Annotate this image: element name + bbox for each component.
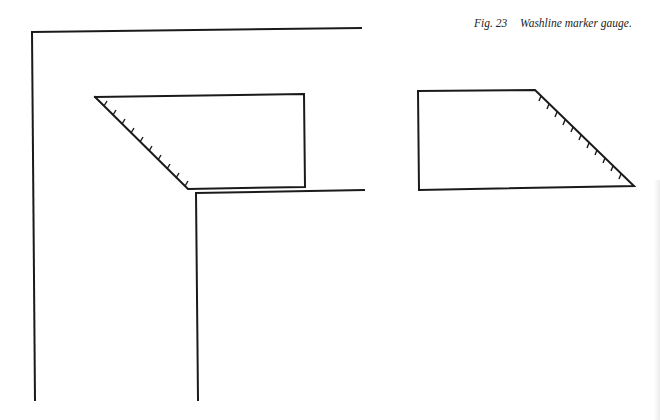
figure-title: Washline marker gauge. xyxy=(520,17,632,29)
figure-label: Fig. 23 xyxy=(474,17,507,29)
left-gauge-ticks xyxy=(104,101,188,186)
right-gauge-ticks xyxy=(539,96,621,179)
inner-frame xyxy=(196,190,364,400)
right-gauge xyxy=(418,90,634,190)
washline-gauge-diagram xyxy=(0,0,660,420)
figure-caption: Fig. 23 Washline marker gauge. xyxy=(474,17,632,29)
left-gauge xyxy=(95,94,305,189)
